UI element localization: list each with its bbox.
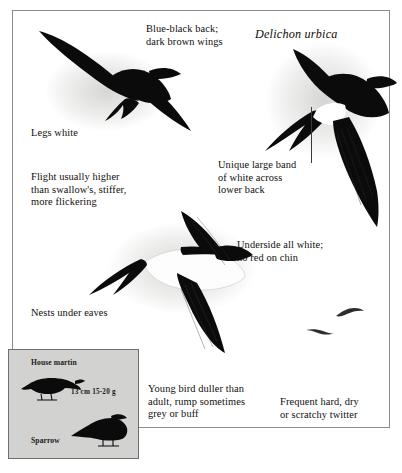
inset-label-house-martin: House martin: [31, 358, 77, 367]
distant-bird-upper: [335, 307, 365, 321]
caption-legs-white: Legs white: [31, 127, 78, 140]
size-comparison-inset: House martin 13 cm 15-20 g Sparrow: [8, 349, 139, 459]
leader-line-to-rump-band: [311, 107, 312, 163]
sparrow-silhouette: [69, 410, 129, 448]
caption-nests: Nests under eaves: [31, 307, 108, 320]
caption-underside: Underside all white; no red on chin: [237, 239, 323, 264]
caption-back-wings: Blue-black back; dark brown wings: [146, 23, 223, 48]
inset-measurements: 13 cm 15-20 g: [71, 388, 116, 396]
inset-label-sparrow: Sparrow: [31, 436, 60, 445]
house-martin-silhouette: [21, 372, 85, 402]
distant-bird-lower: [305, 323, 335, 337]
caption-flight: Flight usually higher than swallow's, st…: [31, 171, 126, 209]
caption-young-bird: Young bird duller than adult, rump somet…: [148, 383, 245, 421]
house-martin-right-upperside: [249, 33, 397, 233]
house-martin-centre-underside: [85, 207, 265, 359]
caption-voice: Frequent hard, dry or scratchy twitter: [280, 396, 359, 421]
caption-rump-band: Unique large band of white across lower …: [218, 159, 296, 197]
